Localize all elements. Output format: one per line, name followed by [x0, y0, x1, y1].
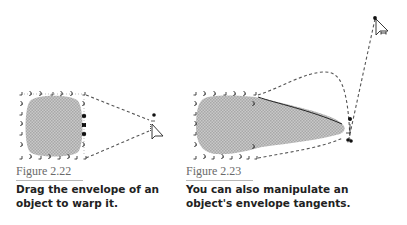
- figure-caption: You can also manipulate an object's enve…: [186, 182, 391, 210]
- figure-2-22-illustration: [20, 92, 164, 160]
- envelope-top-handles: [20, 92, 86, 96]
- move-cursor-icon: [151, 124, 164, 139]
- figure-2-23-illustration: [194, 16, 389, 159]
- envelope-left-handles: [194, 102, 197, 147]
- figure-label: Figure 2.23: [186, 164, 241, 178]
- figure-rule: [16, 180, 83, 181]
- figure-rule: [186, 180, 253, 181]
- envelope-top-handles: [194, 92, 257, 96]
- envelope-bottom-handles: [194, 155, 258, 160]
- envelope-right-handles: [82, 99, 86, 155]
- envelope-left-handles: [20, 102, 23, 147]
- figure-label: Figure 2.22: [16, 164, 71, 178]
- tangent-cursor-icon: [376, 19, 388, 35]
- drag-outline: [86, 95, 149, 158]
- drag-target-handle: [152, 113, 156, 117]
- envelope-object-shape: [196, 95, 345, 154]
- figure-caption: Drag the envelope of an object to warp i…: [16, 182, 176, 210]
- envelope-object-shape: [26, 96, 83, 157]
